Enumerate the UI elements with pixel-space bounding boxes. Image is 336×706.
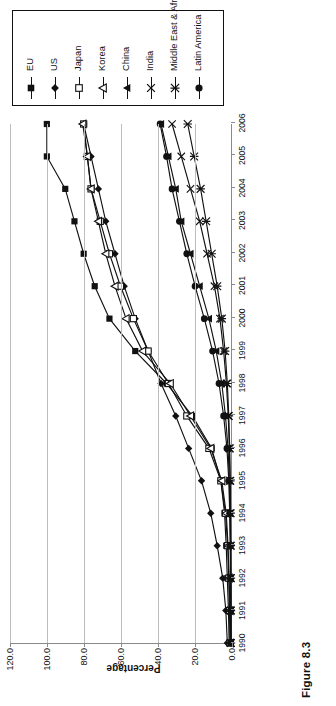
x-tick-mark bbox=[231, 252, 235, 253]
legend-label: Korea bbox=[98, 46, 107, 71]
x-tick-mark bbox=[231, 350, 235, 351]
x-tick-label: 1996 bbox=[237, 438, 247, 457]
data-point-filled-circle bbox=[227, 542, 234, 549]
x-tick-label: 1991 bbox=[237, 601, 247, 620]
data-point-filled-diamond bbox=[172, 412, 179, 419]
data-point-open-triangle bbox=[99, 84, 106, 92]
x-tick-label: 2004 bbox=[237, 178, 247, 197]
x-tick-label: 1999 bbox=[237, 341, 247, 360]
legend-label: Japan bbox=[74, 46, 83, 71]
x-tick-mark bbox=[231, 122, 235, 123]
data-point-x-cross bbox=[187, 185, 194, 192]
legend-label: EU bbox=[26, 58, 35, 71]
x-tick-mark bbox=[231, 382, 235, 383]
x-tick-label: 2002 bbox=[237, 243, 247, 262]
x-tick-mark bbox=[231, 512, 235, 513]
legend-item-middle-east-africa[interactable]: Middle East & Africa bbox=[163, 17, 187, 99]
legend-marker-filled-triangle-icon bbox=[119, 77, 135, 99]
data-point-filled-square bbox=[71, 218, 77, 224]
data-point-filled-triangle bbox=[123, 84, 130, 92]
x-tick-mark bbox=[231, 545, 235, 546]
x-tick-label: 2005 bbox=[237, 146, 247, 165]
gridline bbox=[47, 124, 48, 643]
x-tick-mark bbox=[231, 610, 235, 611]
legend-marker-asterisk-icon bbox=[167, 77, 183, 99]
legend-item-latin-america[interactable]: Latin America bbox=[187, 17, 211, 99]
data-point-filled-circle bbox=[195, 84, 202, 91]
data-point-filled-diamond bbox=[214, 542, 221, 549]
x-tick-mark bbox=[231, 317, 235, 318]
data-point-open-square bbox=[76, 85, 83, 92]
y-tick-mark bbox=[84, 643, 85, 647]
y-tick-mark bbox=[232, 643, 233, 647]
x-tick-label: 1997 bbox=[237, 406, 247, 425]
gridline bbox=[195, 124, 196, 643]
gridline bbox=[121, 124, 122, 643]
legend-item-korea[interactable]: Korea bbox=[91, 17, 115, 99]
y-tick-label: 60.0 bbox=[116, 648, 126, 666]
y-tick-mark bbox=[47, 643, 48, 647]
legend-item-japan[interactable]: Japan bbox=[67, 17, 91, 99]
legend-item-china[interactable]: China bbox=[115, 17, 139, 99]
data-point-filled-diamond bbox=[198, 477, 205, 484]
data-point-filled-circle bbox=[227, 607, 234, 614]
y-axis-title: Percentage bbox=[74, 663, 194, 674]
figure-caption: Figure 8.3 bbox=[300, 642, 312, 698]
data-point-filled-circle bbox=[225, 477, 232, 484]
gridline bbox=[10, 124, 11, 643]
legend-item-eu[interactable]: EU bbox=[19, 17, 43, 99]
legend-item-us[interactable]: US bbox=[43, 17, 67, 99]
data-point-filled-circle bbox=[176, 218, 183, 225]
data-point-x-cross bbox=[178, 153, 185, 160]
series-line-japan bbox=[84, 124, 230, 643]
data-point-filled-diamond bbox=[95, 185, 102, 192]
x-tick-label: 2001 bbox=[237, 276, 247, 295]
legend-label: China bbox=[122, 47, 131, 71]
y-tick-mark bbox=[121, 643, 122, 647]
data-point-filled-circle bbox=[220, 413, 227, 420]
legend-label: India bbox=[146, 51, 155, 71]
data-point-filled-diamond bbox=[207, 510, 214, 517]
data-point-filled-circle bbox=[163, 153, 170, 160]
data-point-filled-circle bbox=[216, 380, 223, 387]
data-point-filled-circle bbox=[201, 315, 208, 322]
y-tick-label: 100.0 bbox=[42, 648, 52, 671]
y-tick-label: 20.0 bbox=[190, 648, 200, 666]
data-point-open-triangle bbox=[139, 347, 146, 355]
data-point-filled-square bbox=[132, 348, 138, 354]
y-tick-label: 80.0 bbox=[79, 648, 89, 666]
x-tick-label: 1998 bbox=[237, 373, 247, 392]
series-line-us bbox=[84, 124, 228, 643]
legend: EUUSJapanKoreaChinaIndiaMiddle East & Af… bbox=[12, 10, 224, 106]
legend-label: Middle East & Africa bbox=[170, 0, 179, 71]
y-tick-label: 120.0 bbox=[5, 648, 15, 671]
data-point-filled-diamond bbox=[51, 84, 59, 92]
y-tick-label: 40.0 bbox=[153, 648, 163, 666]
data-point-filled-circle bbox=[227, 640, 234, 647]
gridline bbox=[84, 124, 85, 643]
legend-marker-filled-square-icon bbox=[23, 77, 39, 99]
plot-area: 0.020.040.060.080.0100.0120.019901991199… bbox=[10, 124, 232, 644]
y-tick-mark bbox=[158, 643, 159, 647]
data-point-x-cross bbox=[168, 120, 175, 127]
x-tick-label: 1993 bbox=[237, 536, 247, 555]
figure-8-3: Percentage 0.020.040.060.080.0100.0120.0… bbox=[0, 0, 336, 706]
y-tick-mark bbox=[195, 643, 196, 647]
legend-marker-filled-diamond-icon bbox=[47, 77, 63, 99]
data-point-filled-diamond bbox=[185, 445, 192, 452]
legend-item-india[interactable]: India bbox=[139, 17, 163, 99]
data-point-filled-square bbox=[106, 316, 112, 322]
legend-label: Latin America bbox=[194, 15, 203, 71]
data-point-filled-circle bbox=[226, 510, 233, 517]
rotated-figure-stage: Percentage 0.020.040.060.080.0100.0120.0… bbox=[0, 0, 336, 706]
x-tick-label: 2000 bbox=[237, 308, 247, 327]
x-tick-mark bbox=[231, 187, 235, 188]
x-tick-label: 2006 bbox=[237, 113, 247, 132]
x-tick-label: 2003 bbox=[237, 211, 247, 230]
x-tick-mark bbox=[231, 220, 235, 221]
x-tick-mark bbox=[231, 642, 235, 643]
x-tick-mark bbox=[231, 577, 235, 578]
data-point-filled-square bbox=[62, 186, 68, 192]
legend-marker-open-triangle-icon bbox=[95, 77, 111, 99]
data-point-filled-circle bbox=[209, 348, 216, 355]
